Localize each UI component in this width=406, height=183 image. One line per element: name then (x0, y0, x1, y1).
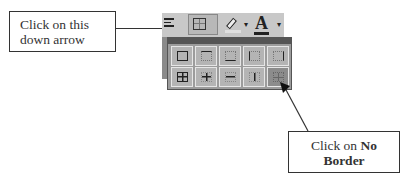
callout-line1: Click on No (289, 138, 399, 153)
bottom-border-button[interactable] (219, 46, 241, 66)
font-color-bar (254, 32, 269, 35)
bottom-border-icon (225, 51, 236, 61)
pointer-line-2 (280, 82, 310, 132)
callout-line1: Click on this (20, 17, 115, 32)
callout-no-border: Click on No Border (288, 131, 400, 173)
eraser-icon[interactable] (224, 16, 242, 33)
inside-vertical-border-icon (249, 72, 260, 82)
font-color-icon[interactable]: A (255, 13, 268, 34)
palette-drag-bar[interactable] (168, 38, 291, 44)
outside-borders-button[interactable] (171, 46, 193, 66)
chevron-down-icon[interactable]: ▾ (277, 20, 281, 29)
callout-line2: down arrow (20, 32, 115, 47)
inside-borders-button[interactable] (195, 67, 217, 87)
left-border-button[interactable] (243, 46, 265, 66)
borders-button[interactable] (188, 14, 218, 35)
outside-borders-icon (177, 51, 188, 61)
top-border-icon (201, 51, 212, 61)
right-border-button[interactable] (267, 46, 289, 66)
inside-vertical-border-button[interactable] (243, 67, 265, 87)
border-icon (193, 18, 206, 30)
inside-borders-icon (201, 72, 212, 82)
left-border-icon (249, 51, 260, 61)
right-border-icon (273, 51, 284, 61)
borders-palette (167, 37, 292, 90)
toolbar: ▾ A ▾ (162, 13, 284, 37)
callout-line2: Border (289, 153, 399, 168)
inside-horizontal-border-icon (225, 72, 236, 82)
all-borders-button[interactable] (171, 67, 193, 87)
no-border-icon (273, 72, 284, 82)
inside-horizontal-border-button[interactable] (219, 67, 241, 87)
callout-down-arrow: Click on this down arrow (9, 11, 116, 52)
align-icon[interactable] (164, 18, 174, 30)
all-borders-icon (177, 72, 188, 82)
top-border-button[interactable] (195, 46, 217, 66)
chevron-down-icon[interactable]: ▾ (244, 20, 248, 29)
